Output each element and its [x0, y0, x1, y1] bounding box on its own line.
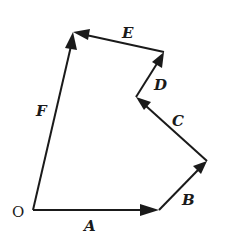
arrowhead-icon — [65, 32, 77, 50]
vector-e — [73, 29, 164, 52]
label-d: D — [153, 76, 167, 94]
vector-diagram: O A B C D E F — [0, 0, 225, 239]
vector-diagram-svg: O A B C D E F — [0, 0, 225, 239]
vector-f — [33, 32, 77, 210]
arrowhead-icon — [152, 52, 164, 68]
vector-a — [33, 204, 159, 216]
label-c: C — [172, 112, 184, 130]
arrowhead-icon — [140, 204, 159, 216]
label-a: A — [82, 217, 96, 235]
label-e: E — [121, 24, 134, 42]
arrowhead-icon — [73, 29, 90, 40]
origin-label: O — [12, 203, 24, 221]
label-b: B — [181, 191, 195, 209]
label-f: F — [35, 102, 48, 120]
